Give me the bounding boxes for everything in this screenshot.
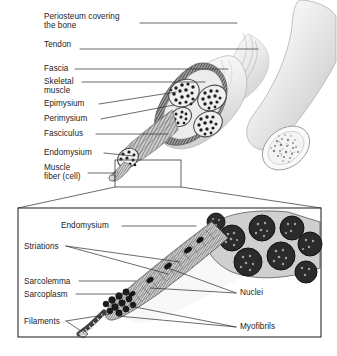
magnified-fiber-art [78,209,322,338]
label-endomysium-inset: Endomysium [61,221,109,230]
label-myofibrils: Myofibrils [240,322,275,331]
label-skeletal-muscle: Skeletal muscle [44,77,74,96]
single-myofibril-strand [78,312,104,338]
label-muscle-fiber: Muscle fiber (cell) [44,163,81,182]
bone-shaft [247,0,336,179]
label-sarcolemma: Sarcolemma [24,277,70,286]
label-periosteum: Periosteum covering the bone [44,12,120,31]
label-filaments: Filaments [24,317,60,326]
label-endomysium-upper: Endomysium [44,148,92,157]
label-fascia: Fascia [44,64,68,73]
label-perimysium: Perimysium [44,114,87,123]
skeletal-muscle-diagram: Periosteum covering the bone Tendon Fasc… [0,0,337,356]
label-nuclei: Nuclei [240,288,263,297]
label-striations: Striations [24,242,59,251]
label-fasciculus: Fasciculus [44,129,83,138]
label-epimysium: Epimysium [44,99,84,108]
label-tendon: Tendon [44,40,71,49]
label-sarcoplasm: Sarcoplasm [24,290,68,299]
